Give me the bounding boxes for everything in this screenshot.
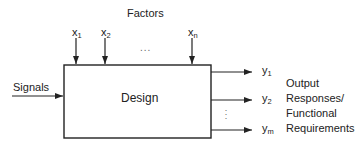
output-subscript: 1 bbox=[268, 69, 272, 78]
factors-title: Factors bbox=[127, 7, 164, 19]
output-label-y1: y1 bbox=[262, 64, 272, 80]
factor-subscript: n bbox=[194, 31, 198, 40]
factor-label-x2: x2 bbox=[101, 26, 111, 42]
output-caption-line: Requirements bbox=[286, 121, 354, 136]
factor-subscript: 2 bbox=[107, 31, 111, 40]
factor-subscript: 1 bbox=[78, 31, 82, 40]
output-ellipsis: ··· bbox=[223, 108, 229, 120]
factor-label-x1: x1 bbox=[72, 26, 82, 42]
design-label: Design bbox=[121, 91, 158, 105]
output-caption-line: Output bbox=[286, 76, 354, 91]
output-caption: Output Responses/ Functional Requirement… bbox=[286, 76, 354, 136]
factor-label-xn: xn bbox=[188, 26, 198, 42]
output-label-y2: y2 bbox=[262, 92, 272, 108]
output-caption-line: Responses/ bbox=[286, 91, 354, 106]
output-subscript: 2 bbox=[268, 97, 272, 106]
signals-label: Signals bbox=[13, 81, 49, 93]
output-caption-line: Functional bbox=[286, 106, 354, 121]
output-label-ym: ym bbox=[262, 122, 274, 138]
factor-ellipsis: ... bbox=[140, 42, 151, 53]
output-subscript: m bbox=[268, 127, 274, 136]
